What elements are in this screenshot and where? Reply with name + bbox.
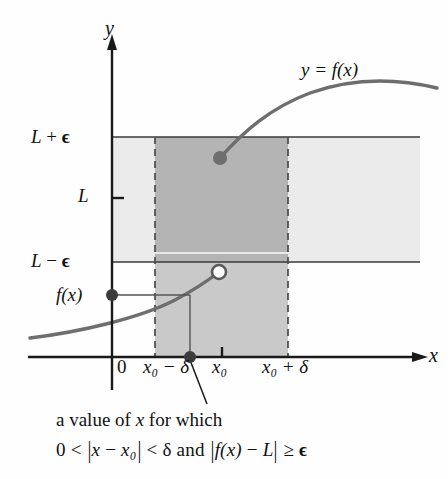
y-tick-label-L: L [78, 186, 89, 205]
absolute-value-bar-close-2: | [274, 432, 278, 467]
caption-L: L [263, 438, 274, 459]
x-axis-arrowhead [412, 352, 428, 362]
caption-text-for-which: for which [149, 409, 222, 430]
epsilon-icon: ϵ [62, 126, 70, 147]
x-axis-label: x [429, 345, 438, 365]
caption-block: a value of x for which 0 < |x − x₀| < δ … [56, 408, 448, 467]
caption-x0-1: x₀ [121, 438, 136, 459]
caption-line-2: 0 < |x − x₀| < δ and |f(x) − L| ≥ ϵ [56, 432, 448, 467]
epsilon-icon-2: ϵ [62, 250, 70, 271]
y-tick-label-f-of-x: f(x) [56, 285, 82, 304]
curve-label-y-equals-f-of-x: y = f(x) [301, 60, 358, 79]
caption-leader-line [190, 360, 207, 404]
y-axis-label: y [105, 18, 114, 38]
y-tick-plus-glyph: + [46, 126, 57, 147]
y-tick-label-L-plus-epsilon: L + ϵ [31, 127, 70, 146]
x-tick-label-x0-minus-delta: x₀ − δ [143, 357, 189, 376]
caption-less-than-2: < [147, 438, 158, 459]
epsilon-delta-limit-diagram: y x L + ϵ L L − ϵ f(x) 0 x₀ − δ x₀ x₀ + … [0, 0, 448, 479]
caption-text-a-value-of: a value of [56, 409, 131, 430]
caption-less-than-1: < [71, 438, 82, 459]
caption-and: and [177, 438, 205, 459]
epsilon-icon-3: ϵ [299, 438, 307, 459]
y-tick-label-L-minus-epsilon: L − ϵ [31, 251, 70, 270]
caption-zero: 0 [56, 438, 66, 459]
x-tick-label-origin: 0 [117, 357, 127, 376]
caption-x-1: x [92, 438, 101, 459]
function-value-dot-upper-branch [213, 151, 227, 165]
caption-minus-2: − [247, 438, 258, 459]
minus-sign-icon: − [46, 250, 57, 271]
caption-minus-1: − [105, 438, 116, 459]
absolute-value-bar-close-1: | [137, 432, 141, 467]
y-tick-L-glyph: L [31, 126, 42, 147]
y-tick-L-glyph-2: L [31, 250, 42, 271]
x-tick-label-x0-plus-delta: x₀ + δ [262, 357, 308, 376]
delta-icon: δ [162, 438, 171, 459]
absolute-value-bar-open-1: | [87, 432, 91, 467]
f-of-x-value-dot-on-y-axis [106, 289, 118, 301]
greater-equal-icon: ≥ [283, 438, 294, 459]
absolute-value-bar-open-2: | [210, 432, 214, 467]
caption-line-1: a value of x for which [56, 408, 448, 432]
x-tick-label-x0: x₀ [212, 357, 227, 376]
right-hand-limit-open-point [212, 265, 226, 279]
caption-f-of-x: f(x) [215, 438, 242, 459]
caption-variable-x: x [136, 409, 144, 430]
